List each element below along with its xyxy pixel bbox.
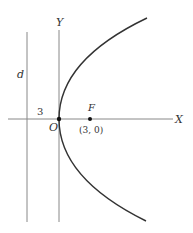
focus-point: [88, 117, 92, 121]
y-axis-label: Y: [56, 16, 65, 29]
origin-label: O: [49, 121, 58, 134]
directrix-label: d: [17, 68, 24, 81]
x-axis-label: X: [174, 113, 184, 126]
distance-label: 3: [37, 106, 43, 117]
parabola-diagram: Y X d 3 O F (3, 0): [0, 0, 193, 233]
focus-label: F: [87, 102, 96, 113]
focus-coords-label: (3, 0): [79, 125, 103, 135]
